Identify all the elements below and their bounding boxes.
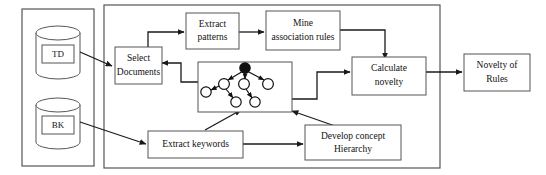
td-label: TD	[52, 49, 64, 59]
process-box-develop-concept-hierarchy[interactable]: Develop concept Hierarchy	[305, 125, 401, 160]
process-box-mine-association-rules[interactable]: Mine association rules	[266, 11, 340, 50]
bk-label: BK	[52, 120, 65, 130]
connector-td-to-select-documents	[80, 52, 112, 66]
mine-rules-line2: association rules	[271, 32, 334, 42]
novelty-of-rules-line2: Rules	[486, 74, 508, 84]
tree-node-child-1	[219, 79, 230, 90]
extract-patterns-line1: Extract	[199, 19, 227, 29]
flow-diagram: TD BK	[0, 0, 546, 175]
calculate-novelty-line1: Calculate	[371, 63, 407, 73]
process-box-extract-patterns[interactable]: Extract patterns	[186, 13, 239, 49]
develop-hierarchy-line1: Develop concept	[321, 131, 385, 141]
process-box-extract-keywords[interactable]: Extract keywords	[148, 131, 243, 158]
process-box-select-documents[interactable]: Select Documents	[115, 47, 162, 84]
diagram-canvas: TD BK	[0, 0, 546, 175]
tree-node-leaf-3	[250, 97, 260, 107]
mine-rules-line1: Mine	[293, 18, 313, 28]
novelty-of-rules-line1: Novelty of	[477, 60, 519, 70]
data-store-bk: BK	[36, 98, 80, 149]
connector-bk-to-extract-keywords	[80, 122, 146, 144]
process-box-calculate-novelty[interactable]: Calculate novelty	[352, 57, 426, 95]
connector-mine-rules-to-calculate-novelty	[340, 30, 385, 59]
data-store-td: TD	[36, 26, 80, 79]
tree-node-child-2	[239, 79, 250, 90]
connector-tree-to-calculate-novelty	[292, 72, 350, 99]
concept-hierarchy-tree	[198, 62, 292, 112]
select-documents-line2: Documents	[117, 67, 161, 77]
connector-extract-keywords-to-tree	[205, 110, 241, 130]
calculate-novelty-line2: novelty	[375, 77, 404, 87]
tree-node-leaf-2	[231, 97, 241, 107]
connector-tree-to-select-documents	[162, 63, 198, 82]
tree-node-child-3	[263, 79, 274, 90]
process-box-novelty-of-rules[interactable]: Novelty of Rules	[464, 54, 530, 91]
select-documents-line1: Select	[127, 53, 151, 63]
develop-hierarchy-line2: Hierarchy	[334, 144, 372, 154]
extract-keywords-label: Extract keywords	[162, 139, 229, 149]
tree-node-root	[240, 63, 250, 73]
tree-node-leaf-1	[201, 87, 211, 97]
extract-patterns-line2: patterns	[197, 32, 227, 42]
